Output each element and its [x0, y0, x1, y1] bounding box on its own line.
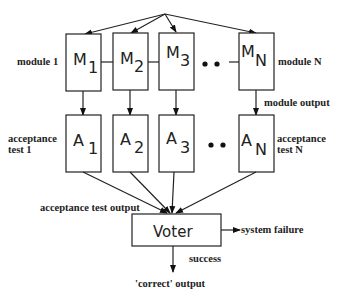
acceptance-2-letter: A — [120, 130, 131, 149]
label-module-n: module N — [278, 56, 321, 67]
label-module-output: module output — [264, 97, 330, 108]
diagram-canvas: M 1 M 2 M 3 M N A 1 A 2 A 3 A N Voter mo… — [0, 0, 340, 296]
acceptance-arrow-3 — [172, 172, 174, 213]
voter-label: Voter — [153, 223, 193, 241]
module-n-letter: M — [241, 42, 255, 61]
acceptance-1-sub: 1 — [88, 139, 98, 158]
acceptance-n-letter: A — [241, 131, 252, 150]
label-acceptance-test-1-line2: test 1 — [8, 144, 32, 155]
label-success: success — [189, 253, 221, 264]
input-arrow-m3 — [165, 14, 176, 32]
input-arrow-m1 — [85, 14, 165, 34]
module-n-sub: N — [255, 51, 267, 70]
acceptance-1-letter: A — [73, 131, 84, 150]
module-2-letter: M — [120, 49, 134, 68]
acceptance-3-letter: A — [166, 129, 177, 148]
label-system-failure: system failure — [241, 224, 304, 235]
label-acceptance-test-n-line1: acceptance — [277, 133, 326, 144]
input-arrow-mn — [165, 14, 256, 33]
acceptance-3-sub: 3 — [180, 138, 190, 157]
acceptance-2-sub: 2 — [134, 138, 144, 157]
label-correct-output: 'correct' output — [135, 278, 205, 289]
label-acceptance-test-n-line2: test N — [277, 144, 303, 155]
module-3-sub: 3 — [180, 51, 190, 70]
label-acceptance-test-output: acceptance test output — [40, 202, 140, 213]
module-2-sub: 2 — [134, 57, 144, 76]
label-module-1: module 1 — [17, 56, 58, 67]
module-1-sub: 1 — [88, 58, 98, 77]
ellipsis-dots — [202, 61, 225, 147]
input-arrow-m2 — [131, 14, 165, 33]
label-acceptance-test-1-line1: acceptance — [8, 133, 57, 144]
module-1-letter: M — [73, 50, 87, 69]
acceptance-n-sub: N — [255, 140, 267, 159]
module-3-letter: M — [166, 43, 180, 62]
acceptance-arrow-n — [176, 172, 256, 213]
